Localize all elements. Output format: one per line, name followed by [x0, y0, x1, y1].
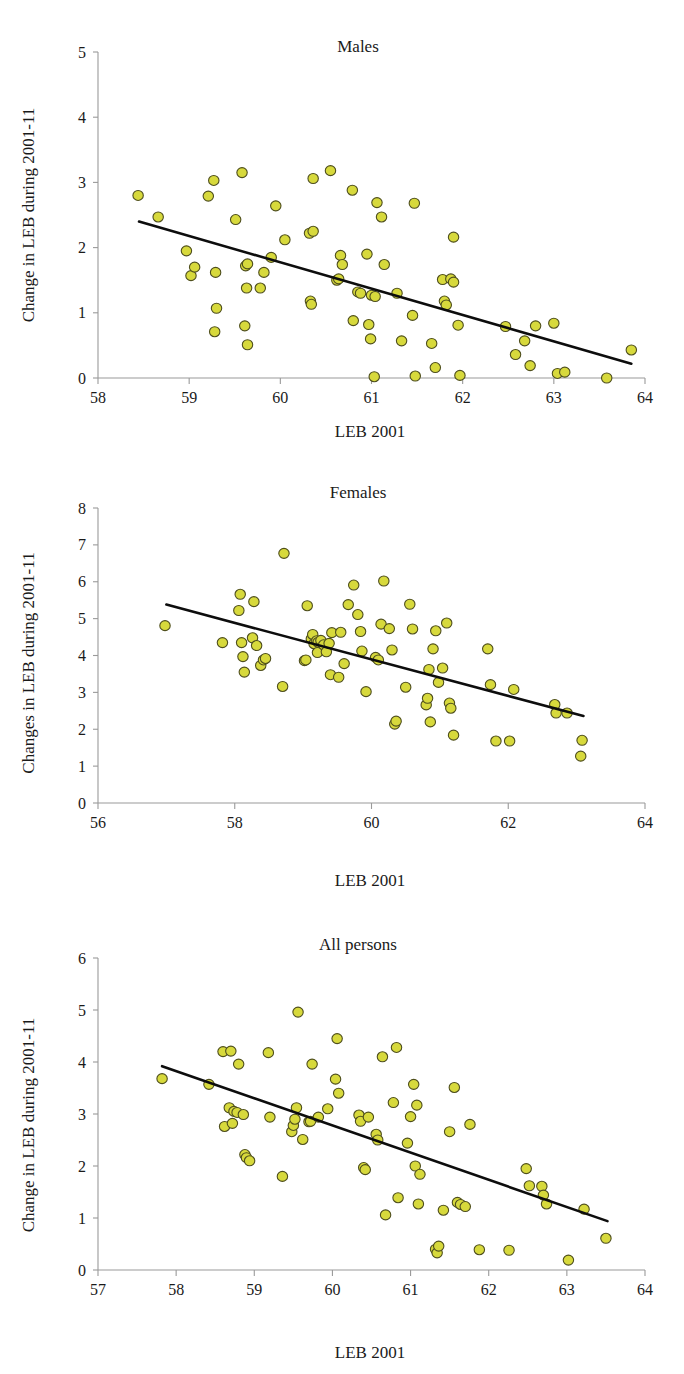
- y-tick-label: 4: [78, 1054, 86, 1071]
- x-tick-label: 58: [168, 1281, 184, 1298]
- data-point: [293, 1007, 303, 1017]
- data-point: [227, 1118, 237, 1128]
- data-point: [181, 246, 191, 256]
- data-point: [504, 736, 514, 746]
- data-point: [333, 672, 343, 682]
- data-point: [446, 703, 456, 713]
- data-point: [376, 212, 386, 222]
- x-axis-title-females: LEB 2001: [335, 871, 405, 890]
- data-point: [407, 624, 417, 634]
- data-point: [491, 736, 501, 746]
- x-tick-label: 62: [455, 389, 471, 406]
- data-point: [277, 1171, 287, 1181]
- x-tick-label: 63: [559, 1281, 575, 1298]
- data-point: [369, 372, 379, 382]
- data-point: [530, 321, 540, 331]
- data-point: [387, 645, 397, 655]
- x-tick-label: 60: [324, 1281, 340, 1298]
- chart-title-all-persons: All persons: [319, 935, 397, 954]
- data-point: [444, 1127, 454, 1137]
- y-tick-label: 0: [78, 370, 86, 387]
- data-point: [336, 627, 346, 637]
- data-point: [402, 1138, 412, 1148]
- data-point: [306, 299, 316, 309]
- scatter-plot-males: Males Change in LEB during 2001-11 LEB 2…: [0, 0, 684, 458]
- y-tick-label: 3: [78, 1106, 86, 1123]
- x-axis-title-males: LEB 2001: [335, 422, 405, 441]
- data-point: [280, 235, 290, 245]
- data-point: [339, 659, 349, 669]
- x-tick-label: 64: [637, 814, 653, 831]
- data-point: [519, 336, 529, 346]
- x-tick-label: 60: [364, 814, 380, 831]
- data-point: [337, 260, 347, 270]
- scatter-plot-females: Females Changes in LEB during 2001-11 LE…: [0, 458, 684, 910]
- data-point: [237, 168, 247, 178]
- data-point: [226, 1046, 236, 1056]
- data-point: [377, 1052, 387, 1062]
- data-point: [409, 1079, 419, 1089]
- data-point: [242, 340, 252, 350]
- data-point: [422, 693, 432, 703]
- y-tick-label: 4: [78, 109, 86, 126]
- data-point: [426, 338, 436, 348]
- x-tick-label: 61: [364, 389, 380, 406]
- data-point: [153, 212, 163, 222]
- y-axis-title-males: Change in LEB during 2001-11: [19, 108, 38, 323]
- data-point: [415, 1169, 425, 1179]
- data-point: [465, 1119, 475, 1129]
- data-point: [428, 644, 438, 654]
- data-point: [430, 363, 440, 373]
- data-point: [234, 606, 244, 616]
- y-tick-label: 1: [78, 304, 86, 321]
- data-point: [301, 655, 311, 665]
- data-point: [302, 601, 312, 611]
- data-point: [308, 226, 318, 236]
- y-tick-label: 2: [78, 239, 86, 256]
- data-point: [438, 1205, 448, 1215]
- x-axis-title-all-persons: LEB 2001: [335, 1343, 405, 1362]
- data-point: [277, 681, 287, 691]
- y-tick-label: 5: [78, 44, 86, 61]
- x-tick-label: 59: [181, 389, 197, 406]
- x-tick-label: 64: [637, 1281, 653, 1298]
- x-tick-label: 59: [246, 1281, 262, 1298]
- data-point: [259, 267, 269, 277]
- x-tick-label: 64: [637, 389, 653, 406]
- data-point: [549, 318, 559, 328]
- data-point: [412, 1100, 422, 1110]
- data-point: [413, 1199, 423, 1209]
- data-point: [265, 1112, 275, 1122]
- data-point: [242, 259, 252, 269]
- data-point: [210, 267, 220, 277]
- y-axis-title-females: Changes in LEB during 2001-11: [19, 552, 38, 773]
- x-tick-label: 58: [227, 814, 243, 831]
- data-point: [279, 548, 289, 558]
- data-point: [509, 684, 519, 694]
- data-point: [332, 1034, 342, 1044]
- data-point: [379, 576, 389, 586]
- data-point: [236, 638, 246, 648]
- data-point: [263, 1048, 273, 1058]
- data-point: [455, 370, 465, 380]
- data-point: [307, 1059, 317, 1069]
- data-point: [239, 667, 249, 677]
- data-point: [323, 1104, 333, 1114]
- x-tick-label: 63: [546, 389, 562, 406]
- trend-line: [166, 605, 583, 716]
- y-tick-label: 5: [78, 610, 86, 627]
- data-point: [504, 1245, 514, 1255]
- data-point: [388, 1098, 398, 1108]
- data-point: [563, 1255, 573, 1265]
- data-point: [379, 260, 389, 270]
- y-tick-label: 0: [78, 1262, 86, 1279]
- y-tick-label: 2: [78, 1158, 86, 1175]
- x-tick-label: 57: [90, 1281, 106, 1298]
- data-point: [230, 215, 240, 225]
- data-point: [160, 621, 170, 631]
- data-point: [474, 1245, 484, 1255]
- data-point: [485, 680, 495, 690]
- data-point: [405, 1112, 415, 1122]
- y-tick-label: 1: [78, 758, 86, 775]
- data-point: [384, 624, 394, 634]
